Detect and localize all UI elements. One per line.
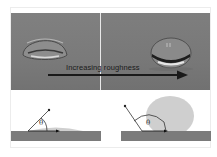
droplet-photos [11,13,210,90]
arrow-label: Increasing roughness [66,63,140,72]
bead-droplet-icon [149,38,193,71]
droplet-shape [146,96,194,136]
theta-label: θ [146,119,150,127]
droplet-shape [28,128,83,132]
contact-angle-diagram-high: θ [121,92,211,146]
substrate [121,131,211,141]
flat-droplet-icon [23,39,67,60]
theta-label: θ [39,119,43,127]
photo-panel-row: Increasing roughness [11,13,210,90]
contact-angle-diagram-low: θ [11,92,101,146]
